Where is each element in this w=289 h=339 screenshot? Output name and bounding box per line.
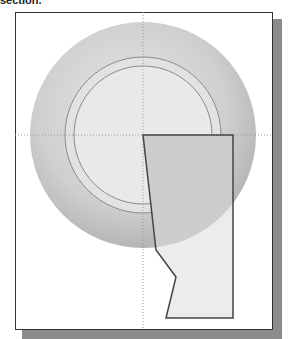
sketch-canvas[interactable] — [0, 0, 289, 339]
